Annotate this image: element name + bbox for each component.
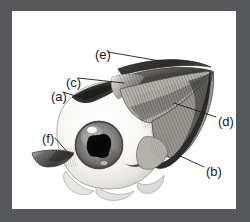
label-b: (b) [206,165,222,178]
label-c: (c) [66,76,81,89]
inferior-oblique-stub [26,143,82,171]
label-a: (a) [51,90,67,103]
label-d: (d) [218,115,234,128]
eye-anatomy-illustration [12,11,236,209]
pupil [87,134,111,158]
figure-frame: (e) (c) (a) (d) (f) (b) [0,0,250,222]
leader-b [178,155,204,167]
label-f: (f) [42,132,54,145]
label-e: (e) [95,48,111,61]
leader-e [108,52,160,61]
figure-panel: (e) (c) (a) (d) (f) (b) [12,11,236,209]
